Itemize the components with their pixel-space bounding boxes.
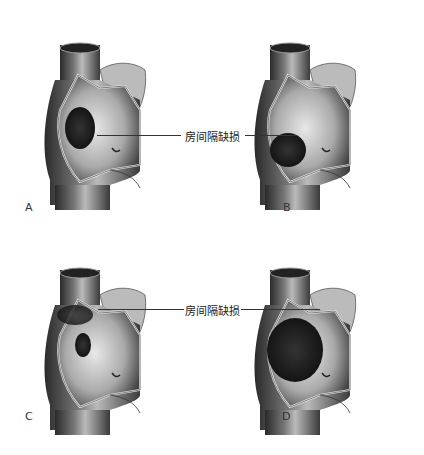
panel-letter-d: D xyxy=(282,410,290,423)
figure-illustration xyxy=(0,0,424,455)
panel-a-heart xyxy=(45,43,146,210)
panel-d-heart xyxy=(255,268,356,435)
panel-letter-c: C xyxy=(25,410,33,423)
callout-label-bottom: 房间隔缺损 xyxy=(184,302,241,318)
leader-line-bottom-left xyxy=(98,309,184,310)
callout-label-top: 房间隔缺损 xyxy=(184,128,241,144)
leader-line-top-right xyxy=(245,135,297,136)
panel-c-heart xyxy=(45,268,146,435)
panel-letter-b: B xyxy=(283,201,291,214)
leader-line-top-left xyxy=(97,135,181,136)
panel-letter-a: A xyxy=(25,201,33,214)
leader-line-bottom-right xyxy=(240,309,320,310)
panel-b-heart xyxy=(255,43,356,210)
